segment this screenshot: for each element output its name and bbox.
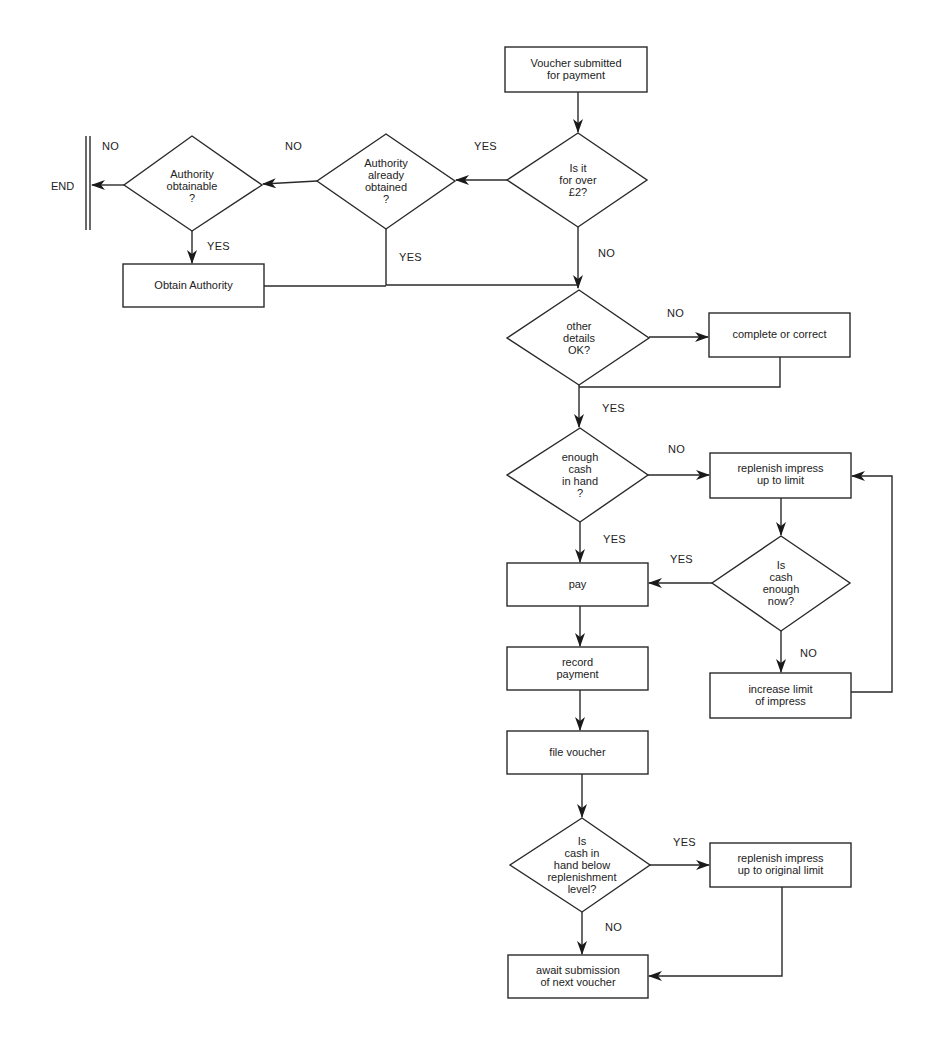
node-below-level-label: Is cash in hand below replenishment leve… (527, 835, 637, 895)
label-over2-no: NO (598, 247, 615, 259)
node-auth-obtainable-label: Authority obtainable ? (146, 168, 238, 204)
node-increase-limit-label: increase limit of impress (710, 683, 851, 707)
edge-increase-loop (851, 476, 892, 692)
node-file-label: file voucher (507, 746, 648, 758)
edge-complete-return (579, 357, 780, 387)
node-auth-obtained-label: Authority already obtained ? (340, 157, 432, 205)
node-end-label: END (51, 180, 74, 192)
label-cash-no: NO (668, 443, 685, 455)
node-obtain-auth-label: Obtain Authority (123, 279, 264, 291)
node-cash-enough-now-label: Is cash enough now? (743, 559, 819, 607)
edge-authobtained-no (263, 181, 317, 184)
flowchart-canvas: Voucher submitted for payment Is it for … (0, 0, 936, 1047)
label-details-no: NO (667, 307, 684, 319)
label-auth-obtainable-yes: YES (207, 240, 230, 252)
edge-replenish-await (649, 887, 782, 976)
label-auth-obtained-no: NO (285, 140, 302, 152)
flowchart-graphics (0, 0, 936, 1047)
node-start-label: Voucher submitted for payment (505, 57, 647, 81)
label-over2-yes: YES (474, 140, 497, 152)
node-await-label: await submission of next voucher (508, 964, 648, 988)
node-enough-cash-label: enough cash in hand ? (542, 451, 618, 499)
node-pay-label: pay (507, 578, 648, 590)
node-over2-label: Is it for over £2? (540, 162, 616, 198)
node-replenish-limit-label: replenish impress up to limit (710, 462, 851, 486)
label-details-yes: YES (602, 402, 625, 414)
label-enough-now-yes: YES (670, 553, 693, 565)
node-replenish-original-label: replenish impress up to original limit (710, 852, 851, 876)
label-auth-obtainable-no: NO (102, 140, 119, 152)
label-below-no: NO (605, 921, 622, 933)
label-auth-obtained-yes: YES (399, 251, 422, 263)
node-details-ok-label: other details OK? (541, 320, 617, 356)
node-record-label: record payment (507, 656, 648, 680)
node-complete-label: complete or correct (709, 328, 850, 340)
label-below-yes: YES (673, 836, 696, 848)
label-enough-now-no: NO (800, 647, 817, 659)
label-cash-yes: YES (603, 533, 626, 545)
